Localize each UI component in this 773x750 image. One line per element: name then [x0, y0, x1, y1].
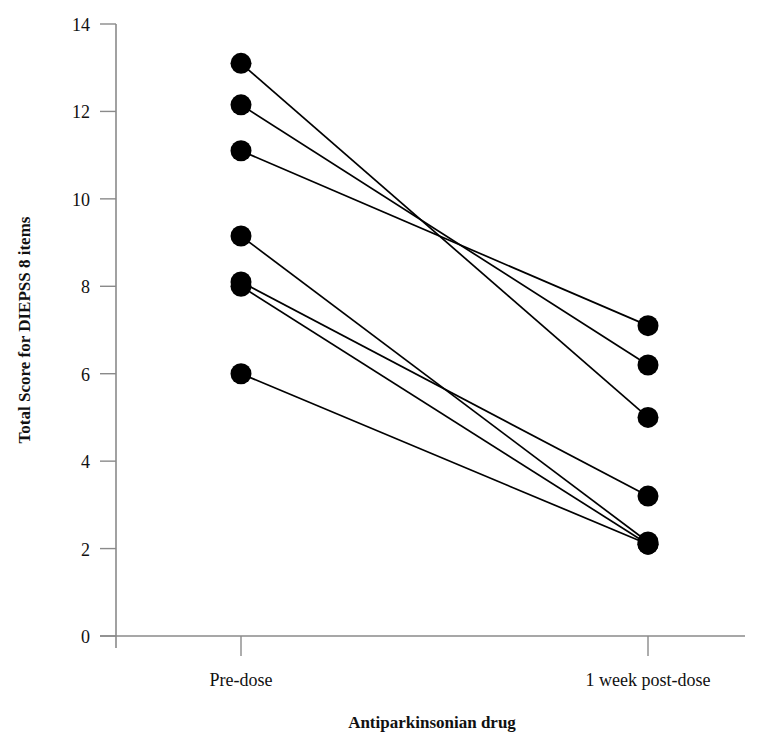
data-point-marker	[638, 486, 659, 507]
data-point-marker	[638, 354, 659, 375]
data-point-marker	[638, 315, 659, 336]
series-connector-line	[241, 63, 648, 417]
series-connector-line	[241, 374, 648, 544]
paired-dot-line-chart: 02468101214 Pre-dose1 week post-dose Tot…	[0, 0, 773, 750]
y-tick-label: 12	[72, 102, 90, 122]
x-axis-title: Antiparkinsonian drug	[348, 713, 516, 732]
data-point-marker	[231, 140, 252, 161]
series-connector-line	[241, 282, 648, 496]
data-point-marker	[231, 226, 252, 247]
series-lines	[241, 63, 648, 544]
x-tick-label: Pre-dose	[210, 670, 273, 690]
y-tick-label: 14	[72, 15, 90, 35]
data-point-marker	[231, 363, 252, 384]
chart-figure: 02468101214 Pre-dose1 week post-dose Tot…	[0, 0, 773, 750]
series-markers	[231, 53, 659, 555]
y-tick-label: 10	[72, 190, 90, 210]
y-tick-label: 6	[81, 365, 90, 385]
data-point-marker	[231, 276, 252, 297]
x-axis-ticks: Pre-dose1 week post-dose	[210, 636, 711, 690]
y-axis-ticks: 02468101214	[72, 15, 116, 647]
y-tick-label: 4	[81, 452, 90, 472]
y-tick-label: 0	[81, 627, 90, 647]
data-point-marker	[231, 53, 252, 74]
y-axis-title: Total Score for DIEPSS 8 items	[15, 216, 34, 443]
x-tick-label: 1 week post-dose	[586, 670, 711, 690]
series-connector-line	[241, 151, 648, 326]
y-tick-label: 2	[81, 540, 90, 560]
data-point-marker	[638, 534, 659, 555]
y-tick-label: 8	[81, 277, 90, 297]
data-point-marker	[231, 94, 252, 115]
data-point-marker	[638, 407, 659, 428]
